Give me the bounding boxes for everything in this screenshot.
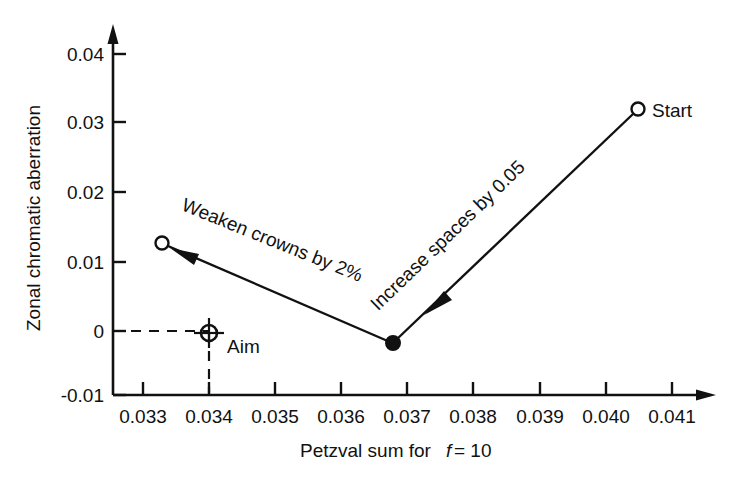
x-tick-label-4: 0.037 <box>383 406 431 427</box>
marker-aim-crosshair <box>194 318 224 348</box>
arrowhead-weaken-crowns <box>170 248 199 265</box>
x-tick-label-0: 0.033 <box>119 406 167 427</box>
y-axis-arrowhead <box>108 24 119 44</box>
x-tick-labels: 0.033 0.034 0.035 0.036 0.037 0.038 0.03… <box>119 406 696 427</box>
y-tick-label-1: 0.03 <box>67 112 104 133</box>
arrowhead-increase-spaces <box>424 291 452 315</box>
x-tick-label-1: 0.034 <box>185 406 233 427</box>
chart-svg: 0.04 0.03 0.02 0.01 0 -0.01 0.033 0.034 … <box>0 0 733 491</box>
marker-vertex-filled-circle <box>386 336 400 350</box>
x-axis-title-italic-f: f <box>446 440 453 461</box>
y-tick-label-2: 0.02 <box>67 182 104 203</box>
x-axis-title-post: = 10 <box>454 440 492 461</box>
aim-guides <box>113 331 209 393</box>
marker-end-open-circle <box>156 237 169 250</box>
y-tick-label-4: 0 <box>93 321 104 342</box>
y-tick-labels: 0.04 0.03 0.02 0.01 0 -0.01 <box>61 44 105 406</box>
segment-weaken-crowns <box>168 246 390 342</box>
y-axis <box>108 24 127 395</box>
x-axis-title-pre: Petzval sum for <box>300 440 432 461</box>
x-axis-arrowhead <box>696 390 716 401</box>
chart-figure: 0.04 0.03 0.02 0.01 0 -0.01 0.033 0.034 … <box>0 0 733 491</box>
x-axis-title: Petzval sum for f = 10 <box>300 440 492 461</box>
annotation-weaken-crowns: Weaken crowns by 2% <box>179 194 366 286</box>
x-tick-label-5: 0.038 <box>449 406 497 427</box>
marker-start-open-circle <box>632 103 645 116</box>
x-tick-label-8: 0.041 <box>648 406 696 427</box>
y-tick-label-0: 0.04 <box>67 44 104 65</box>
x-axis <box>113 382 716 401</box>
x-tick-label-6: 0.039 <box>516 406 564 427</box>
y-tick-label-5: -0.01 <box>61 385 104 406</box>
y-axis-title: Zonal chromatic aberration <box>23 105 44 331</box>
y-tick-label-3: 0.01 <box>67 252 104 273</box>
x-tick-label-3: 0.036 <box>317 406 365 427</box>
x-tick-label-2: 0.035 <box>251 406 299 427</box>
point-label-aim: Aim <box>227 336 260 357</box>
point-label-start: Start <box>652 100 693 121</box>
x-tick-label-7: 0.040 <box>582 406 630 427</box>
